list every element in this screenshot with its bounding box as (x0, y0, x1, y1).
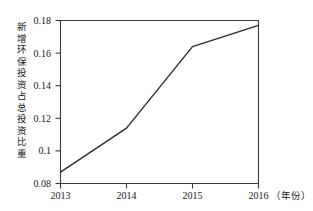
y-axis-title-char-8: 投 (17, 113, 27, 124)
y-tick-label-2: 0.14 (34, 80, 52, 91)
y-axis-title-char-3: 保 (17, 56, 27, 67)
y-axis-title-char-9: 资 (17, 126, 27, 136)
y-axis-title-char-7: 总 (17, 102, 27, 113)
y-tick-label-1: 0.16 (34, 48, 52, 59)
y-tick-label-3: 0.12 (34, 113, 52, 124)
x-tick-label-1: 2014 (117, 190, 137, 201)
y-tick-label-4: 0.1 (39, 145, 52, 156)
line-chart-figure: 0.18 0.16 0.14 0.12 0.1 0.08 2013 2014 2… (0, 0, 313, 211)
x-tick-label-3: 2016 (249, 190, 269, 201)
y-axis-title-char-11: 重 (17, 148, 27, 159)
x-axis-unit-label: （年份） (271, 190, 311, 201)
y-axis-title-char-5: 资 (17, 80, 27, 90)
y-axis-title-char-1: 增 (17, 33, 27, 44)
x-tick-label-2: 2015 (183, 190, 203, 201)
y-axis-title-char-0: 新 (17, 21, 27, 32)
y-axis-title-char-6: 占 (17, 90, 27, 101)
y-axis-title-char-4: 投 (17, 67, 27, 78)
y-axis-title-char-10: 比 (17, 136, 27, 147)
y-tick-label-5: 0.08 (34, 178, 52, 189)
x-tick-label-0: 2013 (51, 190, 71, 201)
chart-canvas: 0.18 0.16 0.14 0.12 0.1 0.08 2013 2014 2… (0, 0, 313, 211)
y-axis-title-char-2: 环 (17, 45, 27, 55)
y-tick-label-0: 0.18 (34, 15, 52, 26)
